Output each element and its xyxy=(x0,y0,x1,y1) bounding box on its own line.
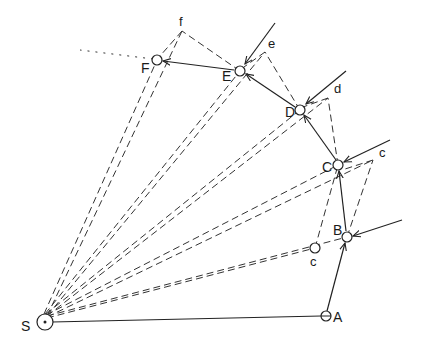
label-d: d xyxy=(334,81,341,96)
label-S: S xyxy=(21,318,30,334)
label-e: e xyxy=(268,36,275,51)
point-D xyxy=(295,105,305,115)
label-c-upper: c xyxy=(379,145,386,160)
label-E: E xyxy=(222,68,231,84)
point-F xyxy=(152,55,162,65)
label-f: f xyxy=(179,14,183,29)
sun-center-dot xyxy=(44,321,47,324)
point-c-lower xyxy=(310,243,320,253)
impulse-arrows xyxy=(245,23,402,236)
labels: S A B c C c D d E e F f xyxy=(21,14,386,334)
label-A: A xyxy=(333,309,343,325)
point-B xyxy=(342,232,352,242)
label-c-lower: c xyxy=(310,254,317,269)
label-C: C xyxy=(322,159,332,175)
label-F: F xyxy=(141,60,150,76)
point-C xyxy=(333,160,343,170)
label-B: B xyxy=(333,222,342,238)
point-E xyxy=(235,66,245,76)
kepler-equal-areas-diagram: S A B c C c D d E e F f xyxy=(0,0,424,354)
label-D: D xyxy=(285,104,295,120)
orbit-path xyxy=(52,61,346,322)
